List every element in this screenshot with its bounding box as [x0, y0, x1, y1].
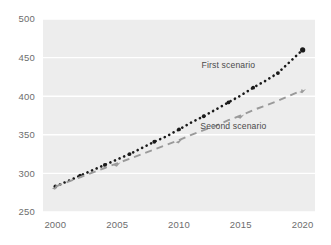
y-axis-tick-450: 450: [19, 52, 35, 63]
data-point-marker: [202, 114, 206, 118]
annotation-second-scenario: Second scenario: [200, 121, 266, 131]
plot-area-background: [43, 19, 315, 212]
data-point-marker: [251, 86, 255, 90]
y-axis-tick-400: 400: [19, 91, 35, 102]
data-point-marker: [177, 127, 181, 131]
y-axis-tick-300: 300: [19, 168, 35, 179]
data-point-marker: [227, 100, 231, 104]
data-point-marker: [103, 163, 107, 167]
x-axis-tick-2000: 2000: [44, 219, 66, 230]
annotation-first-scenario: First scenario: [202, 60, 256, 70]
x-axis-tick-2010: 2010: [168, 219, 190, 230]
x-axis-tick-2015: 2015: [230, 219, 252, 230]
x-axis-tick-labels: 20002005201020152020: [44, 219, 313, 230]
data-point-marker: [276, 71, 280, 75]
data-point-marker: [152, 140, 156, 144]
y-axis-tick-250: 250: [19, 206, 35, 217]
chart-container: 250300350400450500 20002005201020152020 …: [0, 0, 331, 245]
y-axis-tick-350: 350: [19, 129, 35, 140]
x-axis-tick-2020: 2020: [292, 219, 314, 230]
line-chart: 250300350400450500 20002005201020152020 …: [0, 0, 331, 245]
series-end-marker-first-scenario: [300, 47, 305, 52]
data-point-marker: [128, 152, 132, 156]
y-axis-tick-500: 500: [19, 13, 35, 24]
x-axis-tick-2005: 2005: [106, 219, 128, 230]
y-axis-tick-labels: 250300350400450500: [19, 13, 35, 217]
